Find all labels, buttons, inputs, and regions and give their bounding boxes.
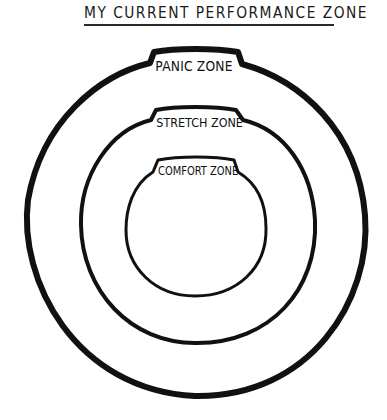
comfort-zone-label: COMFORT ZONE — [158, 164, 232, 178]
stretch-zone-ring — [81, 107, 315, 343]
stretch-zone-label: STRETCH ZONE — [156, 115, 233, 130]
panic-zone-label: PANIC ZONE — [155, 58, 232, 74]
